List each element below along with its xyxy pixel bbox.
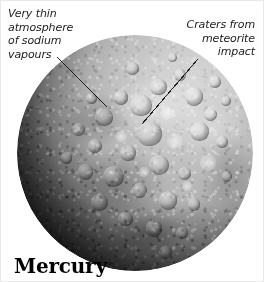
planet-mercury [17,35,253,271]
callout-craters: Craters from meteorite impact [145,18,255,59]
callout-atmosphere: Very thin atmosphere of sodium vapours [8,7,118,61]
mercury-figure: Very thin atmosphere of sodium vapours C… [0,0,264,282]
figure-caption: Mercury [14,255,107,277]
planet-terminator-shadow [17,35,253,271]
